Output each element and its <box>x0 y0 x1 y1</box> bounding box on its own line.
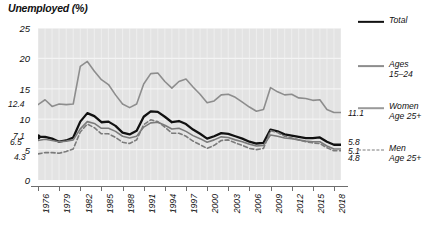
x-axis-tick-label: 2000 <box>210 194 220 213</box>
x-axis-tick-label: 1982 <box>84 194 94 213</box>
x-axis-tick <box>228 186 229 191</box>
series-start-label: 12.4 <box>8 99 25 109</box>
legend-item-label: Total <box>389 16 407 26</box>
legend-item-ages-15-24[interactable]: Ages 15–24 <box>358 60 413 80</box>
x-axis-tick <box>80 186 81 191</box>
x-axis-tick <box>144 186 145 191</box>
legend-swatch-icon <box>358 60 384 72</box>
y-axis-tick-label: 25 <box>0 23 30 34</box>
x-axis-tick <box>165 186 166 191</box>
y-axis-tick-label: 15 <box>0 83 30 94</box>
x-axis-tick-label: 2009 <box>274 194 284 213</box>
series-line-ages-15-24 <box>38 61 341 112</box>
page-title: Unemployed (%) <box>8 2 87 14</box>
x-axis-tick <box>249 186 250 191</box>
x-axis-tick-label: 1991 <box>147 194 157 213</box>
legend-item-label: Women Age 25+ <box>389 102 421 122</box>
y-axis-tick-label: 0 <box>0 175 30 186</box>
plot-lines <box>38 28 341 180</box>
x-axis-tick <box>271 186 272 191</box>
x-axis-tick <box>207 186 208 191</box>
x-axis-tick-label: 1988 <box>126 194 136 213</box>
x-axis-tick-label: 1979 <box>62 194 72 213</box>
x-axis-tick-label: 2018 <box>337 194 347 213</box>
x-axis-tick <box>292 186 293 191</box>
x-axis-tick <box>313 186 314 191</box>
x-axis-tick-label: 1997 <box>189 194 199 213</box>
x-axis-line <box>31 186 348 187</box>
y-axis-tick-label: 20 <box>0 53 30 64</box>
x-axis-tick <box>334 186 335 191</box>
plot-area <box>38 28 341 180</box>
legend-swatch-icon <box>358 16 384 28</box>
x-axis-tick <box>38 186 39 191</box>
legend-item-women-age-25[interactable]: Women Age 25+ <box>358 102 421 122</box>
x-axis-tick <box>186 186 187 191</box>
x-axis-tick-label: 2006 <box>253 194 263 213</box>
x-axis-tick-label: 1985 <box>105 194 115 213</box>
x-axis-tick-label: 2012 <box>295 194 305 213</box>
x-axis-tick <box>123 186 124 191</box>
x-axis-tick-label: 2003 <box>232 194 242 213</box>
y-axis-tick-label: 10 <box>0 114 30 125</box>
chart-root: Unemployed (%) 2520151050 19761979198219… <box>0 0 436 233</box>
legend-item-label: Men Age 25+ <box>389 144 421 164</box>
total-start-marker <box>38 134 41 139</box>
series-start-label: 6.5 <box>10 137 22 147</box>
x-axis-tick-label: 1976 <box>41 194 51 213</box>
x-axis-tick-label: 2015 <box>316 194 326 213</box>
x-axis-tick-label: 1994 <box>168 194 178 213</box>
legend-item-total[interactable]: Total <box>358 16 407 28</box>
x-axis-tick <box>101 186 102 191</box>
legend-item-label: Ages 15–24 <box>389 60 413 80</box>
legend-item-men-age-25[interactable]: Men Age 25+ <box>358 144 421 164</box>
series-start-label: 4.3 <box>14 152 26 162</box>
x-axis-tick <box>59 186 60 191</box>
legend-swatch-icon <box>358 102 384 114</box>
legend-swatch-icon <box>358 144 384 156</box>
